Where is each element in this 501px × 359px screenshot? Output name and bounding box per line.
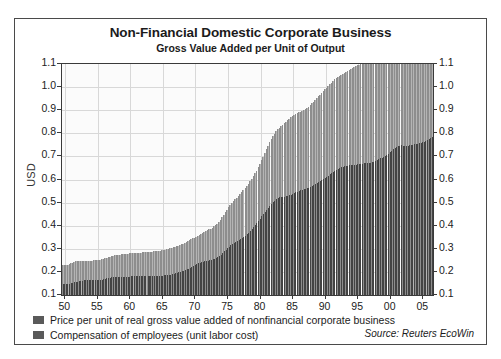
y-axis-tick-label-left: 0.8 bbox=[16, 125, 56, 137]
y-axis-tick-label-right: 0.6 bbox=[439, 172, 479, 184]
y-axis-tick-label-right: 0.2 bbox=[439, 264, 479, 276]
source-attribution: Source: Reuters EcoWin bbox=[365, 328, 474, 339]
y-axis-tick-mark bbox=[57, 271, 61, 272]
y-axis-tick-label-right: 0.5 bbox=[439, 195, 479, 207]
y-axis-tick-mark bbox=[433, 109, 437, 110]
x-axis-tick-mark bbox=[194, 295, 195, 299]
y-axis-tick-mark bbox=[433, 63, 437, 64]
legend-label: Compensation of employees (unit labor co… bbox=[50, 329, 258, 341]
x-axis-tick-label: 75 bbox=[212, 300, 242, 312]
y-axis-tick-mark bbox=[433, 294, 437, 295]
chart-title: Non-Financial Domestic Corporate Busines… bbox=[15, 25, 486, 40]
x-axis-tick-mark bbox=[390, 295, 391, 299]
y-axis-tick-mark bbox=[433, 179, 437, 180]
y-axis-tick-label-right: 1.1 bbox=[439, 56, 479, 68]
y-axis-tick-label-left: 0.3 bbox=[16, 241, 56, 253]
y-axis-tick-label-left: 0.9 bbox=[16, 102, 56, 114]
y-axis-tick-mark bbox=[57, 225, 61, 226]
y-axis-tick-label-left: 1.1 bbox=[16, 56, 56, 68]
bars-layer bbox=[62, 64, 433, 295]
x-axis-tick-mark bbox=[64, 295, 65, 299]
y-axis-tick-label-left: 0.1 bbox=[16, 287, 56, 299]
y-axis-tick-label-right: 0.1 bbox=[439, 287, 479, 299]
x-axis-tick-mark bbox=[97, 295, 98, 299]
x-axis-tick-mark bbox=[422, 295, 423, 299]
chart-container: Non-Financial Domestic Corporate Busines… bbox=[14, 18, 487, 345]
legend-swatch-icon bbox=[33, 331, 44, 339]
x-axis-tick-label: 95 bbox=[342, 300, 372, 312]
x-axis-tick-label: 85 bbox=[277, 300, 307, 312]
y-axis-tick-label-right: 0.7 bbox=[439, 148, 479, 160]
y-axis-tick-mark bbox=[57, 179, 61, 180]
y-axis-tick-label-left: 0.5 bbox=[16, 195, 56, 207]
y-axis-tick-mark bbox=[433, 202, 437, 203]
y-axis-tick-label-right: 0.8 bbox=[439, 125, 479, 137]
x-axis-tick-label: 50 bbox=[49, 300, 79, 312]
y-axis-tick-mark bbox=[57, 63, 61, 64]
y-axis-tick-label-left: 0.4 bbox=[16, 218, 56, 230]
legend-item[interactable]: Price per unit of real gross value added… bbox=[33, 313, 395, 327]
x-axis-tick-mark bbox=[260, 295, 261, 299]
y-axis-tick-label-left: 1.0 bbox=[16, 79, 56, 91]
chart-legend: Price per unit of real gross value added… bbox=[33, 313, 395, 343]
y-axis-tick-mark bbox=[433, 86, 437, 87]
y-axis-tick-mark bbox=[433, 248, 437, 249]
x-axis-tick-label: 80 bbox=[245, 300, 275, 312]
x-axis-tick-label: 65 bbox=[147, 300, 177, 312]
y-axis-tick-label-right: 0.4 bbox=[439, 218, 479, 230]
y-axis-tick-mark bbox=[57, 202, 61, 203]
legend-label: Price per unit of real gross value added… bbox=[50, 314, 395, 326]
y-axis-tick-mark bbox=[57, 155, 61, 156]
y-axis-tick-mark bbox=[433, 271, 437, 272]
x-axis-tick-mark bbox=[357, 295, 358, 299]
y-axis-tick-mark bbox=[433, 225, 437, 226]
y-axis-tick-label-right: 1.0 bbox=[439, 79, 479, 91]
y-axis-tick-mark bbox=[57, 109, 61, 110]
y-axis-tick-mark bbox=[433, 132, 437, 133]
chart-subtitle: Gross Value Added per Unit of Output bbox=[15, 42, 486, 54]
y-axis-tick-mark bbox=[57, 132, 61, 133]
x-axis-tick-mark bbox=[325, 295, 326, 299]
x-axis-tick-label: 00 bbox=[375, 300, 405, 312]
x-axis-tick-label: 90 bbox=[310, 300, 340, 312]
y-axis-tick-label-right: 0.3 bbox=[439, 241, 479, 253]
x-axis-tick-label: 05 bbox=[407, 300, 437, 312]
x-axis-tick-mark bbox=[292, 295, 293, 299]
y-axis-tick-label-right: 0.9 bbox=[439, 102, 479, 114]
x-axis-tick-mark bbox=[227, 295, 228, 299]
legend-item[interactable]: Compensation of employees (unit labor co… bbox=[33, 328, 395, 342]
y-axis-tick-mark bbox=[57, 86, 61, 87]
y-axis-tick-mark bbox=[57, 248, 61, 249]
y-axis-tick-label-left: 0.2 bbox=[16, 264, 56, 276]
y-axis-tick-mark bbox=[433, 155, 437, 156]
plot-area bbox=[61, 63, 434, 296]
x-axis-tick-label: 60 bbox=[114, 300, 144, 312]
y-axis-tick-mark bbox=[57, 294, 61, 295]
x-axis-tick-mark bbox=[162, 295, 163, 299]
legend-swatch-icon bbox=[33, 316, 44, 324]
y-axis-tick-label-left: 0.6 bbox=[16, 172, 56, 184]
x-axis-tick-label: 70 bbox=[179, 300, 209, 312]
x-axis-tick-mark bbox=[129, 295, 130, 299]
x-axis-tick-label: 55 bbox=[82, 300, 112, 312]
y-axis-tick-label-left: 0.7 bbox=[16, 148, 56, 160]
